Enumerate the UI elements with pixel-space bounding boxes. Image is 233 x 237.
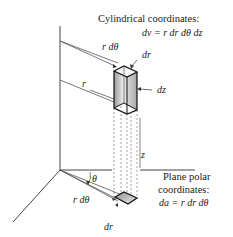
label-z: z: [141, 150, 145, 160]
label-theta: θ: [92, 174, 97, 184]
label-r-dtheta-top: r dθ: [102, 42, 118, 52]
label-dr-bottom: dr: [104, 222, 113, 232]
cylindrical-formula: dv = r dr dθ dz: [142, 28, 202, 38]
cylindrical-title: Cylindrical coordinates:: [98, 14, 199, 25]
label-dr-top: dr: [142, 50, 151, 60]
x-axis: [13, 170, 60, 222]
polar-title-line1: Plane polar: [163, 172, 211, 183]
polar-formula: da = r dr dθ: [159, 198, 208, 208]
cylindrical-coordinates-diagram: Cylindrical coordinates: dv = r dr dθ dz…: [0, 0, 233, 237]
label-dz: dz: [157, 85, 166, 95]
polar-title-line2: coordinates:: [158, 185, 209, 196]
label-r-dtheta-bottom: r dθ: [73, 195, 89, 205]
label-r: r: [82, 79, 86, 89]
